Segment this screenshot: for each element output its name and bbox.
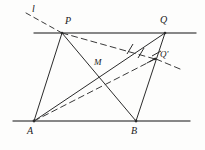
label-point-q: Q: [160, 15, 167, 25]
point-dot-P: [61, 32, 64, 35]
point-dot-Q: [164, 32, 167, 35]
label-line-l: l: [32, 4, 35, 14]
point-dot-Qprime: [154, 58, 156, 60]
segment-AP: [34, 33, 62, 121]
label-point-m: M: [94, 58, 102, 67]
point-dot-B: [135, 120, 138, 123]
segment-QB: [136, 33, 165, 121]
label-point-a: A: [27, 126, 33, 136]
point-dot-A: [33, 120, 36, 123]
dashed-line-l: [26, 13, 62, 33]
dashed-segment-AQprime: [34, 59, 155, 121]
geometry-figure: l P Q Q' M A B: [0, 0, 205, 150]
dashed-segment-PQprime: [62, 33, 155, 59]
dashed-ray-beyond-Qprime: [156, 59, 180, 69]
label-point-q-prime: Q': [160, 50, 168, 59]
label-point-p: P: [65, 16, 71, 26]
segment-AQ: [34, 33, 165, 121]
label-point-b: B: [131, 126, 137, 136]
